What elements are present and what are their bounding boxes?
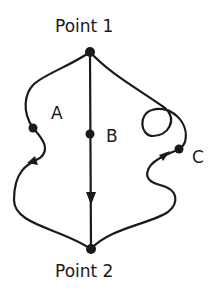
arrow-b-icon [86,192,96,205]
point-2-label: Point 2 [55,263,113,280]
path-a-curve [14,52,91,249]
path-c-curve [90,52,186,249]
path-c-dot [175,145,184,154]
path-diagram [0,0,214,295]
point-2-dot [86,244,96,254]
path-b-label: B [106,128,118,145]
path-b-dot [86,130,95,139]
point-1-dot [85,47,95,57]
path-b-line [90,52,91,249]
path-a-label: A [51,105,63,122]
point-1-label: Point 1 [55,18,113,35]
path-a-dot [29,124,38,133]
arrow-c-icon [159,151,170,161]
path-c-label: C [192,149,204,166]
